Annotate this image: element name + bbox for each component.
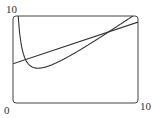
- plot-frame: [13, 16, 138, 103]
- line-series: [13, 22, 138, 64]
- curve-series: [18, 8, 138, 68]
- plot-area: [0, 0, 152, 118]
